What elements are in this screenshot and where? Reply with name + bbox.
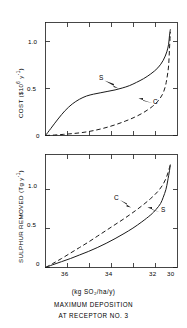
xtick-32: 32 (149, 270, 156, 277)
caption-unit: (kg SO₂/ha/y) (0, 288, 187, 295)
cost-ytick-0: 0 (36, 132, 40, 139)
cost-axis-label-main: COST ($10 (17, 84, 24, 118)
sulphur-axis-label-main: SULPHUR REMOVED (Tg y (17, 177, 24, 263)
cost-axis-label-sup1: 6 (16, 81, 21, 84)
cost-ytick-1: 1.0 (28, 38, 37, 45)
sulphur-panel-plot (0, 145, 187, 275)
cost-axis-label: COST ($106 y-1) (16, 68, 24, 118)
sulphur-ytick-05: 0.5 (27, 221, 36, 228)
arrow-to-c-curve-top (139, 98, 153, 103)
bottom-panel-y-ticks (46, 190, 51, 268)
sulphur-axis-label-end: ) (17, 170, 24, 172)
cost-panel-plot (0, 0, 187, 150)
cost-curve-c-tag: C (153, 98, 158, 105)
caption-unit-text: (kg SO₂/ha/y) (72, 288, 116, 295)
cost-axis-label-sup2: -1 (16, 70, 21, 75)
bottom-panel-bottom-ticks (68, 263, 156, 268)
xtick-36: 36 (61, 270, 68, 277)
figure-container: 1.0 0.5 0 COST ($106 y-1) S C (0, 0, 187, 328)
bottom-panel-axes (46, 155, 178, 268)
sulphur-ytick-1: 1.0 (28, 182, 37, 189)
bottom-panel-right-ticks (173, 190, 178, 268)
sulphur-axis-label: SULPHUR REMOVED (Tg y-1) (16, 170, 24, 263)
xtick-30: 30 (167, 270, 174, 277)
cost-ytick-05: 0.5 (27, 85, 36, 92)
sulphur-curve-s (46, 165, 171, 268)
sulphur-curve-s-tag: S (161, 206, 166, 213)
top-panel-top-ticks (68, 23, 156, 28)
xtick-34: 34 (105, 270, 112, 277)
cost-axis-label-mid: y (17, 75, 24, 81)
top-panel-y-ticks (46, 42, 51, 136)
sulphur-curve-c-tag: C (114, 194, 119, 201)
top-panel-annotation-arrows (105, 81, 153, 104)
top-panel-axes (46, 23, 178, 136)
arrow-to-s-curve-top (105, 81, 119, 89)
sulphur-axis-label-sup: -1 (16, 172, 21, 177)
cost-curve-c (46, 32, 171, 135)
cost-curve-s-tag: S (99, 74, 104, 81)
caption-line-2: AT RECEPTOR NO. 3 (0, 312, 187, 319)
bottom-panel-annotation-arrows (120, 200, 160, 212)
sulphur-curve-c (46, 164, 171, 268)
bottom-panel-top-ticks (68, 155, 156, 160)
caption-line-1: MAXIMUM DEPOSITION (0, 301, 187, 308)
top-panel-right-ticks (173, 42, 178, 136)
top-panel-bottom-ticks (68, 131, 156, 136)
sulphur-ytick-0: 0 (36, 260, 40, 267)
cost-axis-label-end: ) (17, 68, 24, 70)
arrow-to-c-curve-bottom (120, 200, 131, 208)
